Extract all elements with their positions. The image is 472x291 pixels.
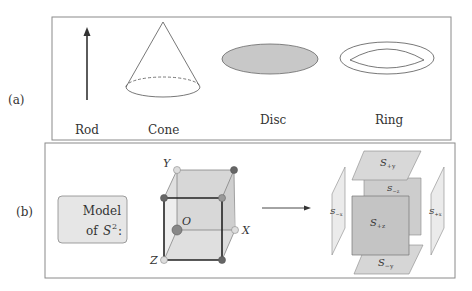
rod-label: Rod	[75, 123, 99, 137]
vertex-origin	[172, 225, 182, 235]
model-box-line1: Model	[83, 204, 121, 218]
vertex-x	[232, 227, 239, 234]
disc-label: Disc	[260, 113, 287, 127]
axis-label-y: Y	[163, 157, 172, 170]
axis-label-x: X	[241, 224, 251, 237]
exploded-cube	[332, 151, 444, 274]
figure-canvas: (a) Rod Cone Disc Ring (b) Model of S 2 …	[0, 0, 472, 291]
rod-icon	[84, 27, 91, 100]
panel-b-tag: (b)	[16, 205, 33, 219]
ring-label: Ring	[375, 113, 404, 127]
vertex-z	[161, 257, 168, 264]
ring-icon	[340, 42, 434, 74]
axis-label-z: Z	[149, 254, 158, 267]
model-box-symbol: S	[103, 224, 111, 238]
cone-label: Cone	[148, 123, 179, 137]
cube-diagram	[161, 167, 239, 264]
vertex-front-top-right	[219, 195, 226, 202]
model-box-superscript: 2	[112, 222, 117, 231]
disc-icon	[222, 44, 318, 74]
panel-a-tag: (a)	[8, 93, 25, 107]
vertex-front-bottom-right	[219, 257, 226, 264]
axis-label-origin: O	[182, 215, 191, 228]
arrow-icon	[262, 206, 311, 211]
vertex-back-top-right	[231, 167, 238, 174]
model-box-line2-prefix: of	[86, 224, 99, 238]
vertex-front-top-left	[161, 195, 168, 202]
cone-icon	[126, 22, 200, 97]
model-box-colon: :	[118, 224, 122, 238]
vertex-y	[174, 167, 181, 174]
